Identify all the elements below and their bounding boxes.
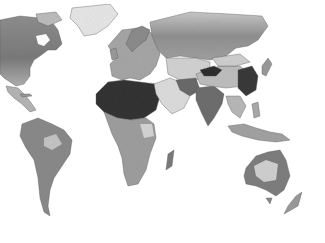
region-east-china <box>238 66 258 96</box>
region-africa-south <box>104 112 156 186</box>
region-southeast-asia <box>226 96 246 118</box>
region-madagascar <box>166 150 174 170</box>
region-greenland <box>70 4 118 36</box>
region-new-zealand <box>284 192 302 214</box>
region-north-america <box>0 16 62 86</box>
region-india <box>196 86 224 126</box>
region-indonesia <box>228 124 290 142</box>
region-japan <box>262 58 272 76</box>
region-central-america <box>6 86 36 112</box>
region-caribbean <box>20 94 32 97</box>
world-map-svg <box>0 0 325 243</box>
region-south-america <box>20 118 72 216</box>
world-map <box>0 0 325 243</box>
region-russia <box>150 12 268 60</box>
region-tasmania <box>266 198 272 204</box>
region-philippines <box>252 102 260 118</box>
